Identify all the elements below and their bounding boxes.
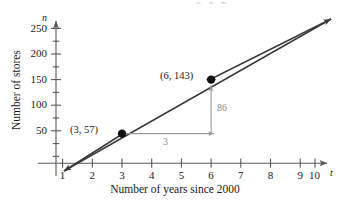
rise-label: 86 [217, 103, 227, 113]
data-point-6-143 [207, 75, 215, 83]
y-tick-label-100: 100 [21, 99, 47, 110]
x-tick-label-3: 3 [112, 170, 132, 181]
point-label-6-143: (6, 143) [160, 71, 193, 82]
y-tick-label-250: 250 [21, 23, 47, 34]
y-axis [51, 21, 61, 176]
x-tick-label-7: 7 [231, 170, 251, 181]
x-tick-label-4: 4 [142, 170, 162, 181]
x-tick-label-2: 2 [82, 170, 102, 181]
run-label: 3 [163, 137, 168, 147]
data-points [118, 75, 216, 137]
trend-line [64, 19, 331, 171]
x-tick-label-6: 6 [201, 170, 221, 181]
x-tick-label-1: 1 [53, 170, 73, 181]
x-axis-variable-t: t [330, 168, 333, 178]
x-tick-label-5: 5 [171, 170, 191, 181]
y-tick-label-200: 200 [21, 48, 47, 59]
data-point-3-57 [118, 129, 126, 137]
y-tick-label-150: 150 [21, 74, 47, 85]
x-tick-label-8: 8 [261, 170, 281, 181]
x-tick-label-10: 10 [305, 170, 325, 181]
point-label-3-57: (3, 57) [70, 125, 98, 136]
y-axis-variable-n: n [42, 13, 47, 23]
y-axis-title: Number of stores [11, 50, 23, 130]
x-axis-title: Number of years since 2000 [65, 184, 285, 196]
linear-graph-figure: o g p [0, 0, 345, 200]
slope-triangle [124, 80, 216, 134]
y-tick-label-50: 50 [21, 125, 47, 136]
